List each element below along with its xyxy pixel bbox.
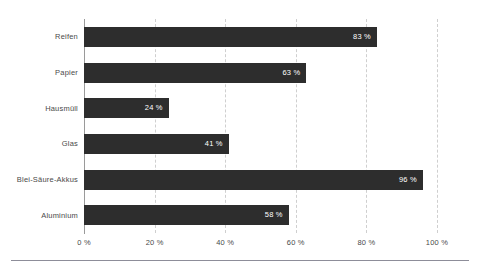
bar: 63 % (84, 63, 306, 83)
plot-area: 83 %63 %24 %41 %96 %58 % (84, 19, 437, 233)
bar-chart-figure: 83 %63 %24 %41 %96 %58 % ReifenPapierHau… (0, 0, 477, 266)
category-label: Reifen (0, 27, 78, 47)
bar-row: 41 % (84, 134, 437, 154)
bar: 83 % (84, 27, 377, 47)
x-tick-label: 80 % (357, 238, 375, 247)
bar-row: 58 % (84, 205, 437, 225)
category-label: Glas (0, 134, 78, 154)
bar: 24 % (84, 98, 169, 118)
bar-value-label: 83 % (353, 33, 371, 41)
bar-row: 63 % (84, 63, 437, 83)
bar-value-label: 41 % (205, 140, 223, 148)
category-label: Blei-Säure-Akkus (0, 170, 78, 190)
bar-value-label: 58 % (265, 211, 283, 219)
category-label: Hausmüll (0, 98, 78, 118)
x-tick-label: 20 % (146, 238, 164, 247)
x-tick-label: 40 % (216, 238, 234, 247)
bar-row: 96 % (84, 170, 437, 190)
bar-value-label: 24 % (145, 104, 163, 112)
x-tick-label: 100 % (426, 238, 448, 247)
bar: 58 % (84, 205, 289, 225)
bar: 96 % (84, 170, 423, 190)
x-axis-tick-labels: 0 %20 %40 %60 %80 %100 % (84, 238, 437, 252)
bar-value-label: 96 % (399, 176, 417, 184)
category-label: Aluminium (0, 205, 78, 225)
bars-group: 83 %63 %24 %41 %96 %58 % (84, 19, 437, 233)
bar-value-label: 63 % (282, 69, 300, 77)
bar-row: 24 % (84, 98, 437, 118)
x-tick-label: 0 % (77, 238, 91, 247)
bar-row: 83 % (84, 27, 437, 47)
category-label: Papier (0, 63, 78, 83)
gridline-100 (437, 19, 438, 233)
bottom-rule (11, 260, 469, 261)
x-tick-label: 60 % (287, 238, 305, 247)
category-axis-labels: ReifenPapierHausmüllGlasBlei-Säure-Akkus… (0, 19, 78, 233)
bar: 41 % (84, 134, 229, 154)
